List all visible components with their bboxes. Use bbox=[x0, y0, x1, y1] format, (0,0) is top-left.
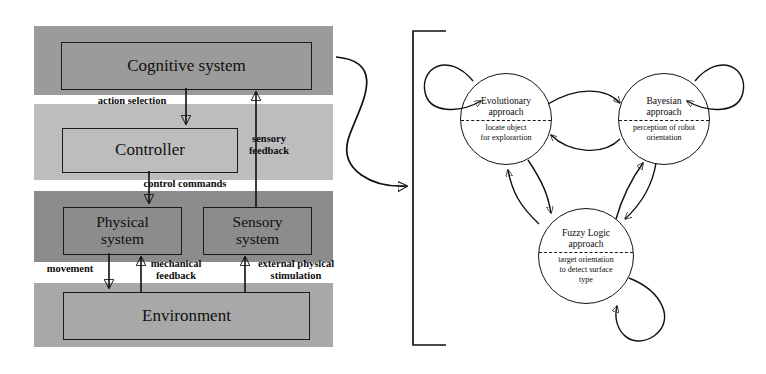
state-bayesian-title: Bayesian approach bbox=[646, 95, 681, 117]
state-fuzzy-content: Fuzzy Logic approach target orientation … bbox=[539, 209, 633, 303]
state-fuzzy-logic-approach: Fuzzy Logic approach target orientation … bbox=[538, 208, 634, 304]
state-evolutionary-approach: Evolutionary approach locate object for … bbox=[460, 73, 552, 165]
state-evolutionary-desc-line1: locate object bbox=[485, 123, 526, 132]
box-cognitive-system: Cognitive system bbox=[61, 42, 312, 90]
label-action-selection: action selection bbox=[80, 95, 184, 107]
state-evolutionary-content: Evolutionary approach locate object for … bbox=[461, 74, 551, 164]
state-fuzzy-divider bbox=[539, 252, 633, 253]
diagram-canvas: Cognitive system Controller Physical sys… bbox=[0, 0, 766, 374]
state-bayesian-divider bbox=[619, 120, 709, 121]
state-evolutionary-desc: locate object for explorartion bbox=[480, 123, 531, 143]
box-controller: Controller bbox=[62, 128, 238, 173]
state-bayesian-desc: perception of robot orientation bbox=[633, 123, 695, 143]
state-fuzzy-title-line1: Fuzzy Logic bbox=[562, 227, 610, 238]
label-sensory-feedback-line2: feedback bbox=[249, 145, 289, 156]
bracket-automaton bbox=[413, 31, 446, 345]
box-physical-system: Physical system bbox=[63, 207, 182, 255]
label-sensory-feedback: sensory feedback bbox=[239, 133, 299, 157]
label-mechanical-feedback: mechanical feedback bbox=[140, 258, 212, 282]
box-environment: Environment bbox=[63, 292, 310, 340]
state-fuzzy-desc-line3: type bbox=[579, 275, 593, 284]
label-external-stimulation-line2: stimulation bbox=[271, 270, 322, 281]
state-evolutionary-desc-line2: for explorartion bbox=[480, 133, 531, 142]
state-bayesian-content: Bayesian approach perception of robot or… bbox=[619, 74, 709, 164]
box-sensory-system-line2: system bbox=[236, 230, 279, 247]
state-fuzzy-title: Fuzzy Logic approach bbox=[562, 227, 610, 249]
box-sensory-system-label: Sensory system bbox=[233, 214, 283, 247]
label-movement: movement bbox=[36, 263, 104, 275]
state-fuzzy-desc: target orientation to detect surface typ… bbox=[558, 255, 613, 285]
label-control-commands: control commands bbox=[133, 178, 237, 190]
arrow-bayesian-to-evolutionary bbox=[551, 135, 620, 150]
box-cognitive-system-label: Cognitive system bbox=[127, 57, 246, 75]
state-evolutionary-title-line1: Evolutionary bbox=[481, 95, 531, 106]
label-sensory-feedback-line1: sensory bbox=[252, 133, 286, 144]
label-external-physical-stimulation: external physical stimulation bbox=[254, 258, 338, 282]
state-bayesian-desc-line2: orientation bbox=[646, 133, 681, 142]
arrow-fuzzy-to-evolutionary bbox=[508, 170, 539, 224]
state-fuzzy-desc-line2: to detect surface bbox=[559, 265, 612, 274]
state-bayesian-approach: Bayesian approach perception of robot or… bbox=[618, 73, 710, 165]
state-bayesian-title-line2: approach bbox=[646, 106, 681, 117]
state-bayesian-desc-line1: perception of robot bbox=[633, 123, 695, 132]
box-sensory-system: Sensory system bbox=[203, 207, 312, 255]
state-evolutionary-title: Evolutionary approach bbox=[481, 95, 531, 117]
box-physical-system-line2: system bbox=[101, 230, 144, 247]
box-controller-label: Controller bbox=[115, 141, 185, 159]
arrow-evolutionary-to-fuzzy bbox=[528, 160, 551, 213]
box-physical-system-line1: Physical bbox=[96, 213, 149, 230]
box-physical-system-label: Physical system bbox=[96, 214, 149, 247]
state-fuzzy-title-line2: approach bbox=[568, 238, 603, 249]
state-evolutionary-divider bbox=[461, 120, 551, 121]
box-environment-label: Environment bbox=[142, 307, 231, 325]
state-evolutionary-title-line2: approach bbox=[488, 106, 523, 117]
label-mechanical-feedback-line2: feedback bbox=[156, 270, 196, 281]
label-external-stimulation-line1: external physical bbox=[258, 258, 334, 269]
label-mechanical-feedback-line1: mechanical bbox=[151, 258, 202, 269]
arrow-architecture-to-automaton bbox=[336, 57, 407, 186]
box-sensory-system-line1: Sensory bbox=[233, 213, 283, 230]
state-bayesian-title-line1: Bayesian bbox=[646, 95, 681, 106]
arrow-evolutionary-to-bayesian bbox=[548, 91, 620, 104]
state-fuzzy-desc-line1: target orientation bbox=[558, 255, 613, 264]
